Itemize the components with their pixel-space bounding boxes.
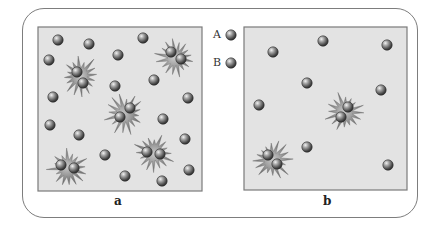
bound-particle-icon (176, 54, 186, 64)
particle-icon (184, 165, 194, 175)
particle-icon (157, 176, 167, 186)
panel-b-label: b (323, 194, 331, 208)
particle-icon (158, 114, 168, 124)
particle-icon (100, 150, 110, 160)
particle-icon (383, 160, 393, 170)
particle-icon (302, 142, 312, 152)
particle-icon (183, 93, 193, 103)
particle-icon (45, 120, 55, 130)
particle-icon (138, 33, 148, 43)
bound-particle-icon (155, 149, 165, 159)
bound-particle-icon (166, 47, 176, 57)
bound-particle-icon (343, 102, 353, 112)
particle-icon (302, 78, 312, 88)
particle-icon (318, 36, 328, 46)
bound-particle-icon (69, 163, 79, 173)
panel-a-label: a (114, 194, 122, 208)
particle-icon (110, 81, 120, 91)
particle-icon (254, 100, 264, 110)
legend-b-label: B (213, 56, 221, 69)
particle-icon (48, 92, 58, 102)
bound-particle-icon (263, 150, 273, 160)
legend-b-particle-icon (226, 58, 236, 68)
particle-icon (44, 55, 54, 65)
bound-particle-icon (78, 78, 88, 88)
bound-particle-icon (142, 147, 152, 157)
particle-icon (84, 39, 94, 49)
particle-icon (376, 85, 386, 95)
bound-particle-icon (125, 103, 135, 113)
bound-particle-icon (56, 160, 66, 170)
particle-icon (180, 134, 190, 144)
particle-icon (120, 171, 130, 181)
particle-icon (268, 47, 278, 57)
particle-icon (113, 50, 123, 60)
bound-particle-icon (115, 112, 125, 122)
bound-particle-icon (72, 67, 82, 77)
particle-icon (74, 130, 84, 140)
particle-icon (382, 40, 392, 50)
legend-a-label: A (213, 28, 221, 41)
legend-a-particle-icon (226, 30, 236, 40)
bound-particle-icon (272, 159, 282, 169)
particle-icon (53, 35, 63, 45)
bound-particle-icon (336, 112, 346, 122)
particle-icon (149, 75, 159, 85)
